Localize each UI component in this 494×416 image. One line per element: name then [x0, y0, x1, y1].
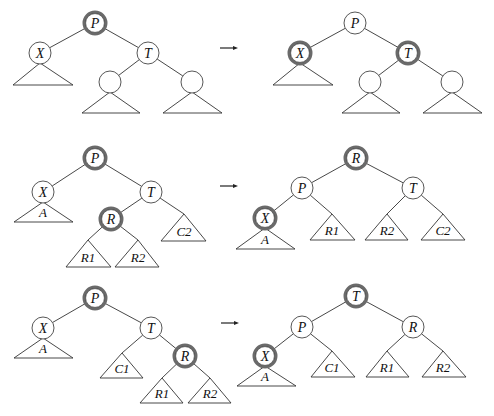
subtree-label: C1	[114, 361, 129, 376]
node-label: P	[90, 16, 100, 31]
tree-edge	[417, 59, 443, 76]
tree-edge	[387, 334, 405, 351]
subtree-label: C2	[435, 223, 451, 238]
tree-node-x: X	[254, 207, 276, 229]
node-label: T	[147, 185, 156, 200]
tree-node-p: P	[344, 12, 366, 34]
tree-edge	[274, 195, 294, 211]
tree-node-x: X	[289, 42, 311, 64]
subtree-label: R1	[80, 250, 95, 265]
subtree-label: A	[38, 341, 47, 356]
tree-node-p: P	[84, 287, 106, 309]
subtree-label: R2	[130, 250, 146, 265]
arrowhead-icon	[233, 184, 238, 188]
node-circle	[99, 71, 121, 93]
arrowhead-icon	[233, 46, 238, 50]
node-label: P	[297, 181, 307, 196]
tree-node-x: X	[29, 42, 51, 64]
subtree-label: R1	[324, 223, 339, 238]
node-label: R	[408, 320, 418, 335]
tree-node-p: P	[291, 316, 313, 338]
subtree-triangle	[13, 63, 73, 85]
tree-edge	[365, 28, 399, 47]
tree-node-r: R	[402, 316, 424, 338]
node-label: R	[351, 151, 361, 166]
node-label: T	[409, 181, 418, 196]
subtree-label: C1	[324, 360, 339, 375]
arrowhead-icon	[234, 321, 239, 325]
tree-edge	[104, 164, 141, 187]
tree-edge	[310, 28, 346, 47]
tree-edge	[53, 303, 86, 322]
subtree-label: A	[260, 369, 269, 384]
node-label: X	[38, 321, 48, 336]
node-layer: PXTPXTPXTRRPTXPXTRTPRX	[29, 12, 463, 367]
subtree-label: R2	[435, 360, 451, 375]
tree-node-r: R	[100, 208, 122, 230]
arrow-layer	[220, 46, 239, 325]
tree-edge	[379, 60, 400, 76]
tree-edge	[52, 164, 86, 186]
tree-node-blank	[359, 71, 381, 93]
subtree-label: C2	[176, 224, 192, 239]
subtree-label: A	[38, 205, 47, 220]
tree-node-p: P	[84, 12, 106, 34]
tree-edge	[162, 364, 177, 378]
subtree-triangle	[163, 92, 222, 113]
tree-edge	[120, 226, 138, 240]
subtree-label: R1	[154, 386, 169, 401]
tree-edge	[122, 335, 143, 353]
subtree-triangle	[342, 92, 400, 113]
node-label: X	[295, 46, 305, 61]
tree-node-blank	[181, 71, 203, 93]
tree-edge	[119, 60, 140, 76]
subtree-label: R2	[379, 223, 395, 238]
tree-node-t: T	[397, 42, 419, 64]
tree-node-r: R	[174, 345, 196, 367]
tree-edge	[157, 59, 183, 76]
tree-node-blank	[441, 71, 463, 93]
tree-edge	[160, 198, 184, 214]
subtree-triangle	[82, 92, 140, 113]
node-label: T	[404, 46, 413, 61]
subtree-triangle	[273, 63, 333, 85]
tree-edge	[312, 163, 347, 182]
node-circle	[359, 71, 381, 93]
tree-edge	[366, 301, 404, 321]
tree-edge	[311, 334, 332, 351]
node-label: P	[297, 320, 307, 335]
tree-edge	[120, 198, 142, 213]
tree-edge	[193, 363, 210, 378]
rotation-diagram: AR1R2C2AR1R2C2AC1R1R2AC1R1R2 PXTPXTPXTRR…	[0, 0, 494, 416]
tree-edge	[159, 335, 176, 349]
tree-edge	[50, 28, 86, 47]
subtree-triangle	[423, 92, 482, 113]
node-label: R	[180, 349, 190, 364]
node-label: P	[90, 151, 100, 166]
tree-node-p: P	[84, 147, 106, 169]
node-label: T	[144, 46, 153, 61]
node-circle	[181, 71, 203, 93]
tree-node-r: R	[345, 147, 367, 169]
tree-node-t: T	[345, 285, 367, 307]
subtree-label: R2	[202, 386, 218, 401]
tree-edge	[105, 28, 139, 47]
tree-edge	[421, 195, 443, 214]
tree-edge	[88, 226, 103, 240]
node-label: P	[350, 16, 360, 31]
node-label: P	[90, 291, 100, 306]
tree-node-p: P	[291, 177, 313, 199]
tree-node-x: X	[32, 181, 54, 203]
tree-node-t: T	[402, 177, 424, 199]
node-label: R	[106, 212, 116, 227]
subtree-layer: AR1R2C2AR1R2C2AC1R1R2AC1R1R2	[13, 63, 482, 403]
node-label: X	[38, 185, 48, 200]
tree-node-x: X	[254, 345, 276, 367]
node-circle	[441, 71, 463, 93]
tree-edge	[312, 301, 347, 321]
tree-node-x: X	[32, 317, 54, 339]
tree-node-t: T	[137, 42, 159, 64]
tree-edge	[366, 163, 404, 183]
node-label: T	[352, 289, 361, 304]
node-label: X	[260, 211, 270, 226]
